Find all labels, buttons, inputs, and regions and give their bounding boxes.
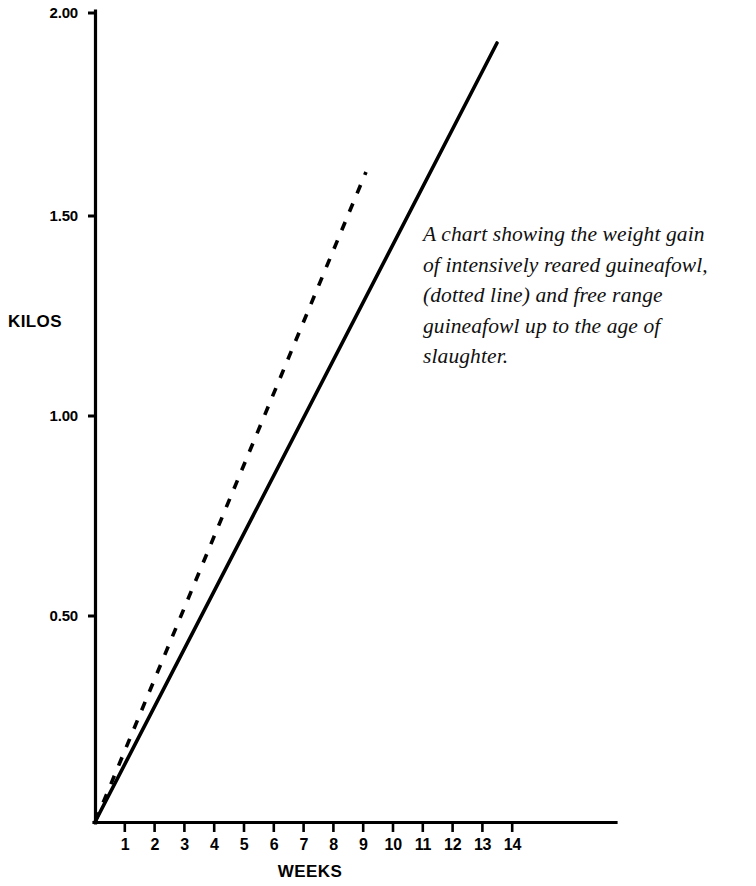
series-line-intensively-reared (96, 172, 367, 821)
x-axis-title: WEEKS (255, 862, 365, 882)
chart-figure: 2.00 1.50 1.00 0.50 1 2 3 4 5 6 7 8 9 10… (0, 0, 756, 886)
annotation-line-1: A chart showing the weight gain (423, 219, 743, 250)
y-tick-label-2_00: 2.00 (26, 4, 78, 21)
annotation-line-5: slaughter. (423, 341, 743, 372)
y-tick-label-0_50: 0.50 (26, 607, 78, 624)
chart-plot-area (0, 0, 756, 886)
annotation-line-3: (dotted line) and free range (423, 280, 743, 311)
y-tick-label-1_50: 1.50 (26, 207, 78, 224)
x-tick-label-14: 14 (497, 836, 527, 854)
annotation-line-2: of intensively reared guineafowl, (423, 250, 743, 281)
x-tick-label-1: 1 (110, 836, 140, 854)
x-tick-label-13: 13 (468, 836, 498, 854)
chart-annotation-text: A chart showing the weight gain of inten… (423, 219, 743, 372)
x-tick-label-6: 6 (259, 836, 289, 854)
y-tick-label-1_00: 1.00 (26, 407, 78, 424)
x-tick-label-4: 4 (199, 836, 229, 854)
x-tick-label-7: 7 (289, 836, 319, 854)
x-tick-label-11: 11 (408, 836, 438, 854)
x-tick-label-3: 3 (170, 836, 200, 854)
y-axis-title: KILOS (8, 312, 62, 332)
annotation-line-4: guineafowl up to the age of (423, 311, 743, 342)
x-tick-label-9: 9 (348, 836, 378, 854)
series-line-free-range (96, 43, 498, 821)
x-tick-label-5: 5 (229, 836, 259, 854)
x-tick-label-12: 12 (438, 836, 468, 854)
x-tick-label-2: 2 (140, 836, 170, 854)
x-tick-label-10: 10 (378, 836, 408, 854)
x-tick-label-8: 8 (319, 836, 349, 854)
